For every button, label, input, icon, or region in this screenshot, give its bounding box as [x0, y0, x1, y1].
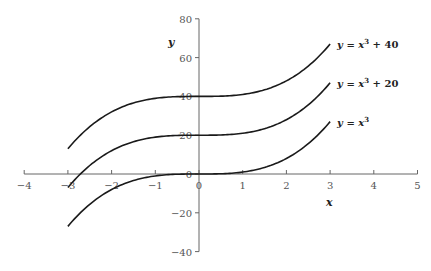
- x-tick-label: 1: [240, 180, 246, 191]
- x-axis-title: x: [325, 196, 333, 209]
- x-tick-label: 4: [371, 180, 377, 191]
- y-tick-label: 80: [179, 14, 192, 25]
- y-tick-label: 60: [179, 53, 192, 64]
- x-tick-label: 3: [327, 180, 333, 191]
- x-tick-label: 2: [283, 180, 289, 191]
- x-tick-label: 0: [196, 180, 202, 191]
- y-axis-title: y: [167, 36, 176, 49]
- curve-label: y = x3 + 40: [336, 37, 398, 50]
- x-tick-label: −4: [17, 180, 32, 191]
- curve-labels: y = x3 + 40y = x3 + 20y = x3: [336, 37, 398, 128]
- y-tick-label: −40: [171, 247, 192, 258]
- curve-label: y = x3 + 20: [336, 76, 398, 89]
- curve-label: y = x3: [336, 115, 369, 128]
- cubic-function-chart: −4−3−2−1012345−40−20020406080 y = x3 + 4…: [0, 0, 431, 271]
- x-tick-label: 5: [414, 180, 420, 191]
- y-tick-label: −20: [171, 208, 192, 219]
- x-tick-label: −1: [148, 180, 163, 191]
